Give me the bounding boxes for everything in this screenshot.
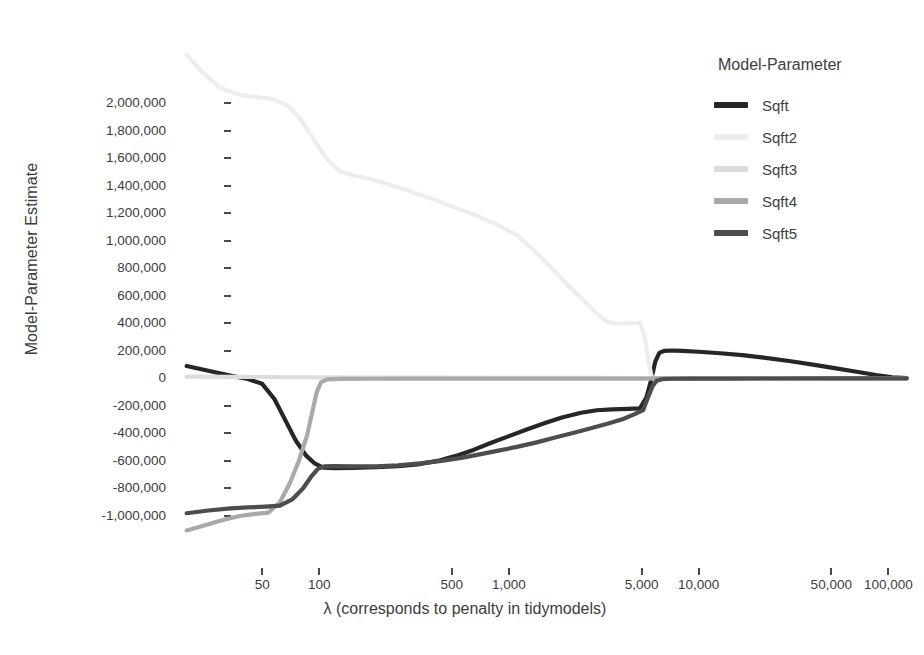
legend-color-swatch (714, 198, 748, 204)
legend-color-swatch (714, 230, 748, 236)
legend-item: Sqft5 (714, 218, 914, 248)
legend-item: Sqft4 (714, 186, 914, 216)
legend-item: Sqft3 (714, 154, 914, 184)
chart-figure: Model-Parameter Estimate 2,000,0001,800,… (0, 0, 924, 655)
legend-item-label: Sqft4 (762, 193, 797, 210)
legend-color-swatch (714, 166, 748, 172)
legend-entries: SqftSqft2Sqft3Sqft4Sqft5 (714, 90, 914, 248)
legend-item: Sqft (714, 90, 914, 120)
x-axis-title: λ (corresponds to penalty in tidymodels) (185, 600, 745, 618)
legend-color-swatch (714, 134, 748, 140)
legend-item-label: Sqft (762, 97, 789, 114)
series-line (187, 378, 907, 513)
legend-item-label: Sqft3 (762, 161, 797, 178)
legend-item-label: Sqft2 (762, 129, 797, 146)
legend-item: Sqft2 (714, 122, 914, 152)
series-line (187, 378, 907, 530)
series-line (187, 351, 907, 469)
legend: Model-Parameter SqftSqft2Sqft3Sqft4Sqft5 (714, 56, 914, 250)
legend-title: Model-Parameter (718, 56, 914, 74)
legend-color-swatch (714, 102, 748, 108)
legend-item-label: Sqft5 (762, 225, 797, 242)
